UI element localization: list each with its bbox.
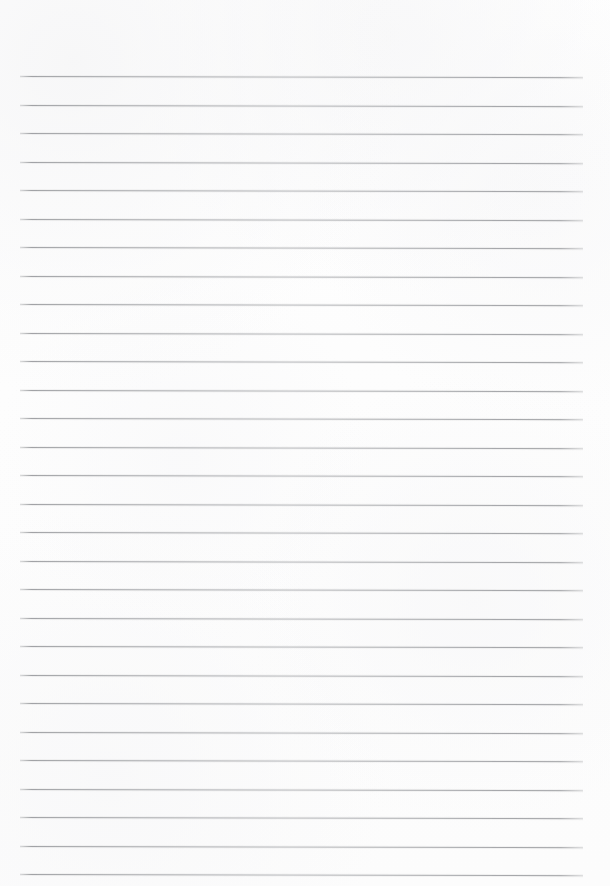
- lined-paper-page: [0, 0, 610, 886]
- writing-area[interactable]: [20, 48, 583, 875]
- rule-line: [20, 874, 583, 876]
